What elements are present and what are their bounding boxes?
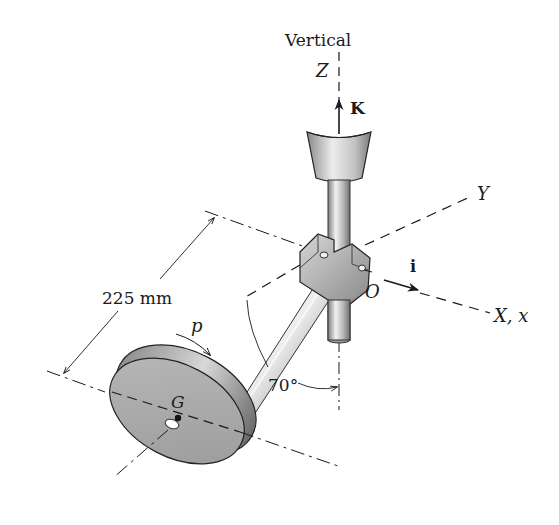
- i-vector-arrow: [384, 280, 418, 290]
- diagram-canvas: Vertical Z K Y i O X, x 225 mm p 70° G: [0, 0, 559, 525]
- bearing-cup: [307, 132, 371, 182]
- x-axis-label: X, x: [492, 305, 528, 326]
- y-axis-label: Y: [477, 183, 491, 204]
- x-axis: [420, 293, 490, 313]
- angle-label: 70°: [268, 375, 298, 395]
- vertical-label: Vertical: [284, 30, 351, 50]
- spin-label: p: [191, 315, 203, 336]
- z-axis-label: Z: [315, 60, 329, 81]
- center-of-mass-label: G: [171, 392, 185, 412]
- i-vector-label: i: [410, 257, 416, 276]
- dimension-label: 225 mm: [102, 288, 172, 308]
- gyroscope-diagram: Vertical Z K Y i O X, x 225 mm p 70° G: [0, 0, 559, 525]
- origin-label: O: [365, 281, 380, 302]
- k-vector-label: K: [350, 98, 366, 118]
- vertical-shaft-lower: [328, 300, 350, 340]
